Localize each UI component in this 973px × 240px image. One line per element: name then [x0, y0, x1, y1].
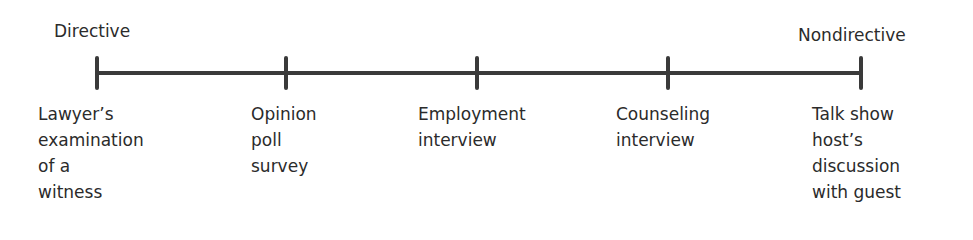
tick-marker: [666, 56, 670, 90]
tick-marker: [475, 56, 479, 90]
continuum-line: [97, 71, 861, 75]
tick-marker: [859, 56, 863, 90]
point-label-employment: Employment interview: [418, 101, 526, 153]
point-label-lawyer: Lawyer’s examination of a witness: [38, 101, 144, 205]
directive-label: Directive: [54, 21, 130, 41]
point-label-talk-show: Talk show host’s discussion with guest: [812, 101, 901, 205]
point-label-counseling: Counseling interview: [616, 101, 710, 153]
tick-marker: [95, 56, 99, 90]
point-label-opinion-poll: Opinion poll survey: [251, 101, 317, 179]
tick-marker: [284, 56, 288, 90]
nondirective-label: Nondirective: [798, 25, 906, 45]
